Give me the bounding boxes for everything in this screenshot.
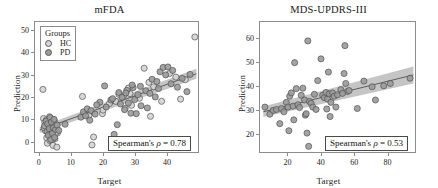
y-tick-label: 40 [235,81,254,90]
data-point [192,34,198,40]
y-tick-label: 50 [10,25,29,34]
annotation-value: = 0.78 [161,138,186,148]
panel-mds-updrs-iii: MDS-UPDRS-III Prediction Target 20304050… [219,0,438,188]
y-tick-mark [256,62,259,63]
data-point [170,67,176,73]
data-point [52,134,58,140]
data-point [179,75,185,81]
data-point [62,121,68,127]
x-tick-mark [135,153,136,156]
data-point [133,111,139,117]
data-point [315,78,321,84]
x-tick-mark [354,153,355,156]
data-point [102,83,108,89]
y-tick-mark [31,142,34,143]
data-point [154,78,160,84]
y-tick-label: 30 [10,70,29,79]
annotation-value: = 0.53 [378,138,403,148]
data-point [40,86,46,92]
data-point [159,98,165,104]
panel-mfda: mFDA Prediction Target 01020304050010203… [0,0,219,188]
y-tick-label: 0 [10,137,29,146]
annotation-spearman-mds-updrs-iii: Spearman's ρ = 0.53 [325,136,408,151]
x-tick-label: 30 [131,158,139,167]
data-point [328,99,334,105]
data-point [333,104,339,110]
legend-label-pd: PD [60,49,70,57]
y-tick-mark [31,119,34,120]
data-point [304,130,310,136]
y-tick-mark [31,30,34,31]
data-point [117,101,123,107]
legend-swatch-pd-icon [45,49,52,56]
data-point [342,43,348,49]
data-point [137,83,143,89]
y-tick-label: 20 [235,129,254,138]
data-point [141,65,147,71]
x-tick-label: 40 [317,158,325,167]
y-tick-mark [31,97,34,98]
data-point [361,78,367,84]
data-point [305,38,311,44]
x-tick-label: 20 [283,158,291,167]
annotation-spearman-mfda: Spearman's ρ = 0.78 [108,136,191,151]
data-point [173,74,179,80]
data-point [291,117,297,123]
x-tick-label: 80 [384,158,392,167]
legend-item-pd: PD [45,49,71,57]
data-point [292,60,298,66]
x-tick-label: 60 [350,158,358,167]
data-point [147,113,153,119]
data-point [318,56,324,62]
x-tick-mark [388,153,389,156]
x-tick-label: 20 [99,158,107,167]
x-axis-label-mfda: Target [0,176,219,186]
data-point [123,90,129,96]
data-point [343,80,349,86]
y-tick-label: 60 [235,33,254,42]
x-tick-mark [167,153,168,156]
y-tick-mark [256,110,259,111]
data-point [303,111,309,117]
data-point [346,87,352,93]
data-point [262,104,268,110]
data-point [311,91,317,97]
data-point [354,105,360,111]
y-tick-label: 30 [235,105,254,114]
data-point [325,69,331,75]
data-point [372,97,378,103]
x-tick-mark [71,153,72,156]
y-tick-mark [256,86,259,87]
x-axis-label-mds-updrs-iii: Target [219,176,438,186]
data-point [54,144,60,150]
data-point [381,83,387,89]
data-point [92,111,98,117]
panel-title-mfda: mFDA [0,4,219,15]
data-point [178,96,184,102]
data-point [125,100,131,106]
y-tick-label: 10 [10,115,29,124]
x-tick-label: 40 [163,158,171,167]
x-tick-label: 10 [67,158,75,167]
figure-container: mFDA Prediction Target 01020304050010203… [0,0,438,188]
x-tick-mark [39,153,40,156]
scatter-plot-mds-updrs-iii [260,22,415,152]
data-point [297,105,303,111]
data-point [174,84,180,90]
data-point [79,93,85,99]
data-point [94,102,100,108]
data-point [90,134,96,140]
y-tick-mark [256,134,259,135]
data-point [109,96,115,102]
data-point [187,71,193,77]
y-tick-mark [31,75,34,76]
x-tick-mark [321,153,322,156]
data-point [144,105,150,111]
legend-label-hc: HC [60,40,71,48]
data-point [184,89,190,95]
data-point [155,85,161,91]
data-point [369,84,375,90]
data-point [293,86,299,92]
series-pd [262,38,413,150]
x-tick-label: 0 [37,158,41,167]
